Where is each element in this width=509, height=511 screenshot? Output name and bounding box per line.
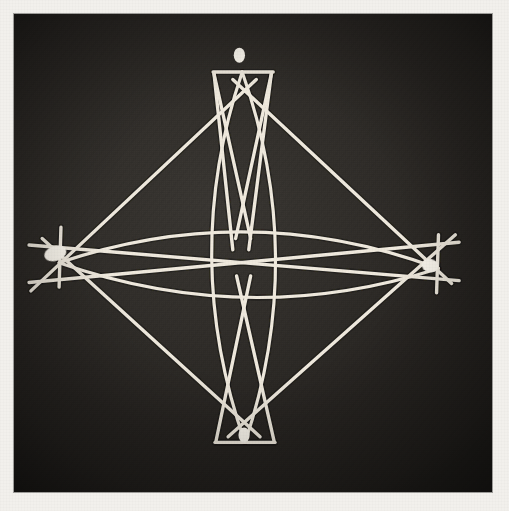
straight-threads-layer (29, 72, 459, 442)
curved-threads-layer (59, 72, 438, 442)
bead-top (234, 48, 245, 63)
string-construction-diagram (14, 14, 492, 492)
photo-plate (14, 14, 492, 492)
bead-layer (42, 48, 439, 443)
thread-shadow-layer (29, 72, 459, 442)
photograph-mount: String Construction Photograph (0, 0, 509, 511)
bead-bottom (238, 427, 249, 442)
